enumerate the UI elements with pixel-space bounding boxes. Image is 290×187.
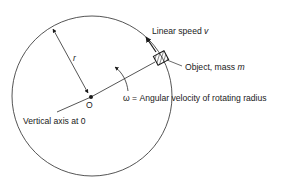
omega-rotation-arrow: [115, 67, 128, 91]
circular-motion-diagram: r Linear speed v Object, mass m ω = Angu…: [0, 0, 290, 187]
radius-label: r: [73, 53, 77, 63]
angular-velocity-label: ω = Angular velocity of rotating radius: [123, 93, 267, 103]
linear-speed-arrow: [146, 37, 156, 52]
center-point-icon: [89, 95, 93, 99]
linear-speed-label: Linear speed v: [152, 26, 209, 36]
object-leader-line: [167, 60, 182, 66]
vertical-axis-label: Vertical axis at 0: [23, 116, 86, 126]
object-mass-label: Object, mass m: [185, 62, 245, 72]
rotating-radius-line: [91, 62, 155, 97]
center-label: O: [86, 100, 93, 110]
object-mass-icon: [153, 51, 168, 65]
radius-dimension-arrow: [53, 29, 88, 93]
